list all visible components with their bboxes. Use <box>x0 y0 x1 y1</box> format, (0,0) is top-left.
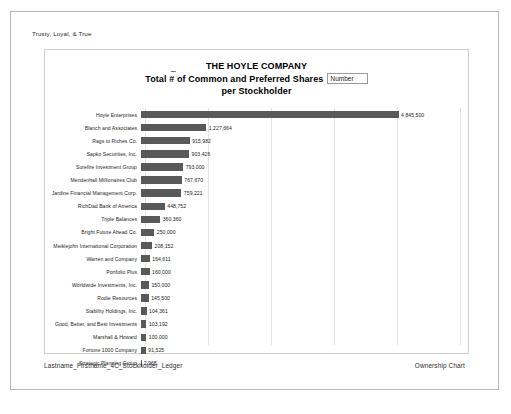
chart-title-block: THE HOYLE COMPANY Total # of Common and … <box>45 60 468 98</box>
bar-track: 759,221 <box>141 187 460 200</box>
bar-category-label: Triple Balances <box>45 216 141 222</box>
chart-container[interactable]: THE HOYLE COMPANY Total # of Common and … <box>44 49 469 354</box>
bar-value-label: 915,982 <box>192 138 211 144</box>
bar-rows: Hoyle Enterprises4,845,500Blanch and Ass… <box>45 108 460 345</box>
bar-value-label: 759,221 <box>184 190 203 196</box>
plot-area: Hoyle Enterprises4,845,500Blanch and Ass… <box>145 108 460 345</box>
bar-category-label: Warren and Company <box>45 256 141 262</box>
bar[interactable] <box>141 137 190 144</box>
bar[interactable] <box>141 150 189 157</box>
bar-category-label: Worldwide Investments, Inc. <box>45 282 141 288</box>
bar-track: 250,000 <box>141 226 460 239</box>
bar[interactable] <box>141 216 160 223</box>
bar[interactable] <box>141 163 183 170</box>
bar[interactable] <box>141 268 150 275</box>
bar-track: 2,968 <box>141 357 460 370</box>
chart-title-line-2-text: Total # of Common and Preferred Shares <box>145 73 323 86</box>
bar-value-label: 250,000 <box>157 229 176 235</box>
bar-category-label: Blanch and Associates <box>45 125 141 131</box>
bar-value-label: 160,000 <box>152 269 171 275</box>
bar-row[interactable]: Marshall & Howard100,000 <box>45 331 460 344</box>
bar-track: 915,982 <box>141 134 460 147</box>
bar-value-label: 150,000 <box>151 282 170 288</box>
bar-track: 91,525 <box>141 344 460 357</box>
gridline <box>460 108 461 345</box>
bar-category-label: Jardine Financial Management Corp. <box>45 190 141 196</box>
bar-value-label: 360,360 <box>163 216 182 222</box>
bar-track: 150,000 <box>141 278 460 291</box>
bar-row[interactable]: Rodie Resources145,500 <box>45 291 460 304</box>
bar-row[interactable]: Blanch and Associates1,227,664 <box>45 121 460 134</box>
footer-sheet-name: Ownership Chart <box>415 362 465 369</box>
bar-category-label: Sapko Securities, Inc. <box>45 151 141 157</box>
chart-title-line-1: THE HOYLE COMPANY <box>45 60 468 73</box>
chart-title-line-3: per Stockholder <box>45 85 468 98</box>
bar-row[interactable]: Worldwide Investments, Inc.150,000 <box>45 278 460 291</box>
bar-category-label: Stability Holdings, Inc. <box>45 308 141 314</box>
bar[interactable] <box>141 294 149 301</box>
bar[interactable] <box>141 334 146 341</box>
bar-category-label: Good, Better, and Best Investments <box>45 321 141 327</box>
bar-category-label: RichDad Bank of America <box>45 203 141 209</box>
bar-category-label: Rodie Resources <box>45 295 141 301</box>
document-page: Trusty, Loyal, & True THE HOYLE COMPANY … <box>10 11 499 390</box>
bar-category-label: Bright Future Ahead Co. <box>45 229 141 235</box>
bar[interactable] <box>141 255 150 262</box>
bar-row[interactable]: Portfolio Plus160,000 <box>45 265 460 278</box>
bar-category-label: Marshall & Howard <box>45 334 141 340</box>
bar-track: 448,752 <box>141 200 460 213</box>
bar-track: 793,000 <box>141 160 460 173</box>
bar-track: 100,000 <box>141 331 460 344</box>
bar-row[interactable]: Sapko Securities, Inc.903,426 <box>45 147 460 160</box>
number-sign-glyph: # <box>169 73 174 86</box>
bar[interactable] <box>141 189 181 196</box>
bar-value-label: 164,611 <box>152 256 170 262</box>
bar-row[interactable]: Triple Balances360,360 <box>45 213 460 226</box>
bar-track: 1,227,664 <box>141 121 460 134</box>
footer-filename: Lastname_Firstname_4C_Stockholder_Ledger <box>44 362 183 369</box>
bar-row[interactable]: Stability Holdings, Inc.104,361 <box>45 305 460 318</box>
bar[interactable] <box>141 124 206 131</box>
document-header-text: Trusty, Loyal, & True <box>32 30 92 37</box>
bar-category-label: Mendenhall Millionaires Club <box>45 177 141 183</box>
chart-title-line-2: Total # of Common and Preferred Shares N… <box>45 73 468 86</box>
bar[interactable] <box>141 203 165 210</box>
bar-value-label: 1,227,664 <box>209 125 232 131</box>
bar-row[interactable]: Hoyle Enterprises4,845,500 <box>45 108 460 121</box>
legend-number-box[interactable]: Number <box>327 73 367 84</box>
bar-category-label: Hoyle Enterprises <box>45 112 141 118</box>
bar[interactable] <box>141 307 147 314</box>
bar-track: 103,192 <box>141 318 460 331</box>
bar-track: 160,000 <box>141 265 460 278</box>
bar-category-label: Surefire Investment Group <box>45 164 141 170</box>
bar[interactable] <box>141 347 146 354</box>
bar-row[interactable]: Meiklejohn International Corporation208,… <box>45 239 460 252</box>
bar[interactable] <box>141 111 399 118</box>
bar[interactable] <box>141 242 152 249</box>
bar-track: 903,426 <box>141 147 460 160</box>
bar-category-label: Portfolio Plus <box>45 269 141 275</box>
bar[interactable] <box>141 320 146 327</box>
bar-row[interactable]: Good, Better, and Best Investments103,19… <box>45 318 460 331</box>
bar-track: 4,845,500 <box>141 108 460 121</box>
bar-value-label: 793,000 <box>186 164 205 170</box>
bar-row[interactable]: Rags to Riches Co.915,982 <box>45 134 460 147</box>
bar-row[interactable]: Surefire Investment Group793,000 <box>45 160 460 173</box>
bar-row[interactable]: Bright Future Ahead Co.250,000 <box>45 226 460 239</box>
bar-category-label: Fortune 1000 Company <box>45 347 141 353</box>
bar-row[interactable]: Fortune 1000 Company91,525 <box>45 344 460 357</box>
bar-row[interactable]: RichDad Bank of America448,752 <box>45 200 460 213</box>
bar-row[interactable]: Warren and Company164,611 <box>45 252 460 265</box>
bar-value-label: 767,670 <box>184 177 203 183</box>
bar-value-label: 903,426 <box>192 151 211 157</box>
bar-value-label: 100,000 <box>149 334 168 340</box>
bar[interactable] <box>141 229 154 236</box>
bar-value-label: 91,525 <box>148 347 164 353</box>
bar-row[interactable]: Mendenhall Millionaires Club767,670 <box>45 174 460 187</box>
bar[interactable] <box>141 281 149 288</box>
bar-category-label: Rags to Riches Co. <box>45 138 141 144</box>
bar-track: 145,500 <box>141 291 460 304</box>
bar-value-label: 448,752 <box>167 203 186 209</box>
bar[interactable] <box>141 176 182 183</box>
bar-row[interactable]: Jardine Financial Management Corp.759,22… <box>45 187 460 200</box>
